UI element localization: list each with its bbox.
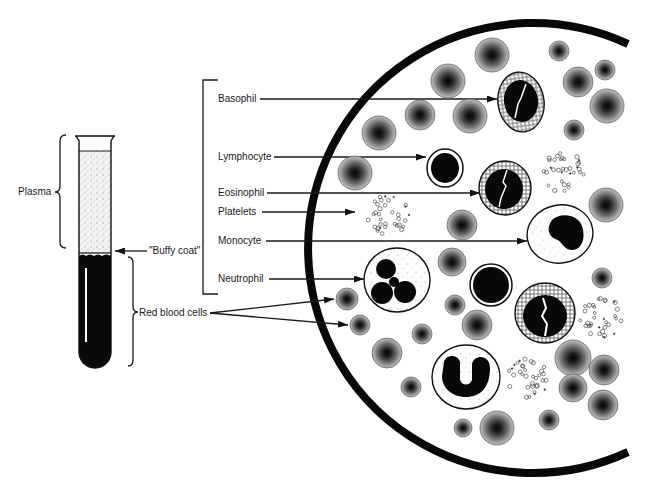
platelet	[519, 360, 521, 362]
platelet	[400, 227, 404, 231]
platelet-cluster	[366, 195, 410, 235]
platelet	[603, 336, 605, 338]
red-blood-cell	[431, 64, 465, 98]
platelet	[538, 374, 541, 377]
platelet	[589, 332, 593, 336]
red-blood-cell	[447, 210, 477, 240]
platelet	[584, 305, 587, 308]
platelet	[376, 203, 380, 207]
platelet	[524, 369, 527, 372]
platelet	[579, 319, 582, 322]
blood-composition-diagram: Plasma "Buffy coat" Basophil Lymphocyte …	[0, 0, 647, 494]
buffy-coat-label: "Buffy coat"	[149, 245, 201, 256]
platelet	[396, 213, 400, 217]
platelet	[593, 312, 596, 315]
platelet	[562, 183, 566, 187]
platelet	[582, 173, 585, 176]
platelet	[526, 386, 530, 390]
platelet	[540, 369, 544, 373]
platelet	[575, 155, 579, 159]
platelet	[511, 368, 513, 370]
red-blood-cell	[559, 374, 587, 402]
platelet	[563, 189, 566, 192]
platelets-label: Platelets	[218, 206, 256, 217]
platelet	[603, 325, 607, 329]
platelet	[619, 319, 623, 323]
platelet	[385, 196, 387, 198]
red-blood-cell	[589, 355, 619, 385]
eosinophil-label: Eosinophil	[218, 187, 264, 198]
platelet	[507, 369, 510, 372]
neutrophil-label: Neutrophil	[218, 273, 264, 284]
red-cell-layer	[79, 255, 111, 369]
platelet	[577, 167, 579, 169]
platelet	[524, 374, 528, 378]
red-blood-cell	[588, 390, 618, 420]
platelet	[523, 357, 527, 361]
platelet	[551, 168, 555, 172]
platelet	[550, 167, 552, 169]
platelet	[607, 323, 611, 327]
platelet	[603, 318, 605, 320]
red-blood-cell	[462, 310, 492, 340]
platelet	[599, 327, 601, 329]
platelet	[514, 364, 516, 366]
red-blood-cell	[338, 156, 372, 190]
platelet	[615, 307, 619, 311]
platelet-cluster	[579, 296, 623, 338]
platelet	[572, 171, 575, 174]
platelet	[534, 393, 536, 395]
red-blood-cell	[350, 315, 370, 335]
platelet	[547, 184, 550, 187]
red-cells-brace	[128, 257, 138, 366]
platelet	[542, 372, 546, 376]
test-tube	[75, 136, 115, 368]
red-blood-cell	[453, 99, 487, 133]
red-blood-cell	[438, 248, 466, 276]
eosinophil-cell-2	[515, 283, 575, 343]
neutrophil-cell	[364, 248, 430, 312]
platelet	[508, 384, 512, 388]
platelet	[378, 207, 382, 211]
platelet	[391, 211, 394, 214]
red-blood-cell	[372, 338, 402, 368]
platelet	[377, 212, 380, 215]
plasma-layer	[79, 151, 111, 253]
platelet	[387, 198, 391, 202]
red-blood-cell	[564, 120, 584, 140]
platelet	[598, 296, 602, 300]
platelet-cluster	[507, 357, 548, 399]
platelet	[532, 375, 535, 378]
red-blood-cell	[539, 410, 559, 430]
lymphocyte-label: Lymphocyte	[218, 151, 272, 162]
platelet	[516, 361, 519, 364]
platelet	[366, 218, 370, 222]
red-blood-cell	[412, 324, 432, 344]
platelet	[569, 173, 571, 175]
platelet	[567, 183, 570, 186]
platelet	[379, 227, 381, 229]
platelet	[512, 373, 516, 377]
red-blood-cell	[454, 419, 472, 437]
platelet	[379, 218, 382, 221]
platelet	[397, 223, 401, 227]
red-blood-cell	[480, 411, 514, 445]
red-blood-cell	[445, 295, 465, 315]
band-neutrophil-cell	[432, 345, 500, 409]
platelet	[380, 232, 384, 236]
platelet	[598, 332, 602, 336]
monocyte-label: Monocyte	[218, 235, 262, 246]
platelet	[564, 167, 568, 171]
platelet	[593, 316, 596, 319]
platelet	[561, 171, 563, 173]
platelet	[403, 219, 407, 223]
red-blood-cell	[549, 41, 569, 61]
platelet	[613, 333, 615, 335]
basophil-cell	[494, 69, 548, 135]
red-cells-pointer-2	[210, 313, 348, 325]
platelet	[553, 158, 557, 162]
platelet	[544, 389, 546, 391]
red-cells-label: Red blood cells	[139, 307, 207, 318]
red-blood-cell	[592, 268, 612, 288]
lymphocyte-cell	[427, 149, 463, 187]
